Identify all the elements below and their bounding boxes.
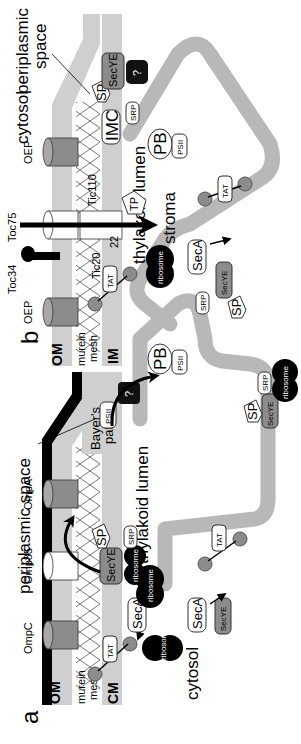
ribosome-a-2: ribosome [124,545,146,585]
svg-text:TAT: TAT [215,533,224,547]
svg-text:SecYE: SecYE [266,402,275,426]
figure-canvas: a OM murein mesh CM periplasmic space Ba… [0,0,301,744]
svg-text:OmpC: OmpC [22,622,34,654]
panel-a-letter: a [16,710,43,724]
svg-text:ribosome: ribosome [131,549,140,582]
label-cm-a: CM [105,682,121,704]
svg-text:TAT: TAT [106,644,115,658]
svg-text:OEP: OEP [22,301,34,324]
svg-text:TAT: TAT [106,274,115,288]
ribosome-b: ribosome [146,245,174,288]
svg-text:SecA: SecA [190,240,205,271]
svg-text:?: ? [123,391,135,397]
svg-text:Tic110: Tic110 [86,174,98,206]
tat-substrate-a [123,637,137,651]
svg-text:?: ? [131,70,143,76]
oep-porin-2: OEP [22,138,78,166]
porin-ompc: OmpC [22,621,78,654]
svg-text:Toc34: Toc34 [6,265,18,294]
svg-text:PSII: PSII [176,356,185,371]
svg-text:OEP: OEP [22,141,34,164]
svg-text:Toc75: Toc75 [6,213,18,242]
svg-text:SRP: SRP [129,105,138,121]
label-murein-a: murein [75,670,87,704]
oep-porin-1: OEP [22,298,78,326]
svg-text:OmpA: OmpA [22,478,34,510]
tat-substrate-b [123,267,137,281]
porin-ompa: OmpA [22,478,78,510]
label-mesh-b: mesh [87,335,99,362]
svg-text:SecA: SecA [190,598,205,629]
svg-text:ribosome: ribosome [156,251,165,284]
svg-text:ribosome: ribosome [146,569,155,602]
svg-text:PB: PB [151,347,170,370]
label-murein-b: murein [75,332,87,366]
svg-text:TAT: TAT [221,184,230,198]
svg-text:SecYE: SecYE [105,548,117,582]
svg-text:PB: PB [151,132,170,155]
tat-pore-thy-a [233,532,247,546]
svg-text:IMC: IMC [103,110,122,141]
label-periplasmic-b-2: space [31,24,50,69]
svg-text:SP: SP [94,529,109,546]
label-om-a: OM [47,681,63,704]
tat-pore-thy-b [238,177,252,191]
tat-substrate-thy-b [198,192,212,206]
thylakoid-lumen-a [140,301,268,584]
label-im-b: IM [105,348,121,364]
murein-mesh-a [76,439,100,689]
protein-import-diagram: a OM murein mesh CM periplasmic space Ba… [0,0,301,744]
svg-text:Tic20: Tic20 [90,253,102,280]
svg-text:ribosome: ribosome [159,627,168,660]
panel-b: b OM murein mesh IM cytosol periplasmic … [6,8,272,366]
ribosome-a-4: ribosome [272,359,298,402]
seca-arrow-b [210,239,230,244]
svg-text:SP: SP [229,299,244,316]
svg-text:PSII: PSII [176,140,185,155]
svg-text:SRP: SRP [261,375,270,391]
svg-text:SRP: SRP [199,295,208,311]
svg-text:SecYE: SecYE [220,271,229,295]
ribosome-a-3: ribosome [142,627,183,661]
svg-text:SP: SP [245,403,260,420]
label-periplasmic-b-1: periplasmic [13,8,32,94]
svg-text:ribosome: ribosome [281,366,290,399]
svg-text:TP: TP [128,197,140,211]
panel-b-letter: b [16,331,43,344]
svg-text:SecYE: SecYE [107,53,119,87]
svg-text:22: 22 [108,236,120,248]
label-stroma-b: stroma [160,192,179,245]
svg-text:SRP: SRP [127,529,136,545]
svg-text:Omp85: Omp85 [22,548,34,584]
label-om-b: OM [49,343,65,366]
label-cytosol-b: cytosol [13,91,32,144]
label-cytosol-a: cytosol [183,647,202,700]
svg-text:SecYE: SecYE [219,607,228,631]
